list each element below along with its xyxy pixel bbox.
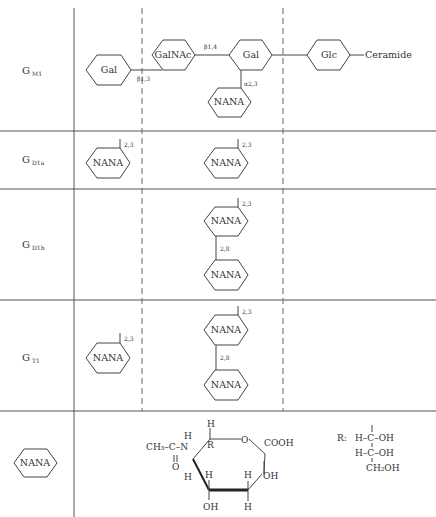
nana-label: NANA	[211, 379, 241, 390]
row-label-gd1a: GD1a	[22, 154, 45, 166]
nana-label: NANA	[211, 269, 241, 280]
r-group-marker: R	[207, 440, 214, 450]
linkage-23: 2,3	[242, 200, 252, 207]
nana-label: NANA	[211, 157, 241, 168]
ring-oxygen: O	[241, 435, 248, 445]
row-label-gm1: GM1	[22, 65, 42, 77]
h-atom: H	[207, 419, 215, 429]
hydroxyl: OH	[263, 471, 278, 481]
r-label: R:	[337, 433, 347, 443]
cooh-group: COOH	[264, 438, 294, 448]
h-atom: H	[244, 502, 252, 512]
h-atom: H	[184, 431, 192, 441]
linkage-23: 2,3	[242, 308, 252, 315]
nana-label: NANA	[93, 157, 123, 168]
nana-label: NANA	[211, 215, 241, 226]
r-group-definition: R: H–C–OH H–C–OH CH₂OH	[337, 425, 400, 473]
linkage-beta14: β1,4	[204, 43, 217, 51]
nana-label: NANA	[93, 352, 123, 363]
linkage-23: 2,3	[124, 141, 134, 148]
gd1b-structure: NANA 2,3 2,8 NANA	[204, 198, 252, 290]
acetyl-group: CH₃–C–N	[146, 442, 188, 452]
ganglioside-diagram: GM1 GD1a GD1b GT1 Gal β1,3 GalNAc β1,4 G…	[0, 0, 436, 517]
linkage-28: 2,8	[220, 245, 230, 252]
linkage-23: 2,3	[242, 141, 252, 148]
linkage-alpha23: α2,3	[244, 80, 258, 87]
gal-label: Gal	[101, 64, 117, 75]
h-atom: H	[205, 470, 213, 480]
h-atom: H	[184, 472, 192, 482]
row-label-gt1: GT1	[22, 352, 40, 364]
nana-chemical-structure: H O COOH R H CH₃–C–N O H H H OH OH H	[146, 419, 294, 512]
glc-label: Glc	[321, 49, 337, 60]
gt1-structure: NANA 2,3 NANA 2,3 2,8 NANA	[86, 306, 252, 400]
hydroxyl: OH	[203, 502, 218, 512]
r-line-2: H–C–OH	[355, 448, 394, 458]
r-line-1: H–C–OH	[355, 433, 394, 443]
linkage-28: 2,8	[220, 354, 230, 361]
nana-symbol-label: NANA	[20, 457, 50, 468]
gm1-structure: Gal β1,3 GalNAc β1,4 Gal Glc Ceramide α2…	[86, 40, 412, 117]
nana-legend: NANA H O COOH R H CH₃–C–N O H	[14, 419, 400, 512]
linkage-23: 2,3	[124, 335, 134, 342]
gal-2-label: Gal	[243, 49, 259, 60]
nana-label: NANA	[211, 324, 241, 335]
nana-label: NANA	[214, 96, 244, 107]
carbonyl-oxygen: O	[172, 462, 179, 472]
gd1a-structure: NANA 2,3 NANA 2,3	[86, 139, 252, 178]
linkage-beta13: β1,3	[137, 75, 150, 83]
row-label-gd1b: GD1b	[22, 239, 45, 251]
r-line-3: CH₂OH	[366, 463, 400, 473]
h-atom: H	[244, 470, 252, 480]
ceramide-label: Ceramide	[365, 49, 412, 60]
galnac-label: GalNAc	[155, 49, 192, 60]
